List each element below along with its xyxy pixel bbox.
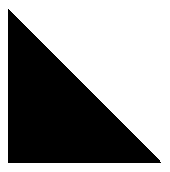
triangle-graphic [0,0,170,172]
image-canvas [0,0,170,172]
